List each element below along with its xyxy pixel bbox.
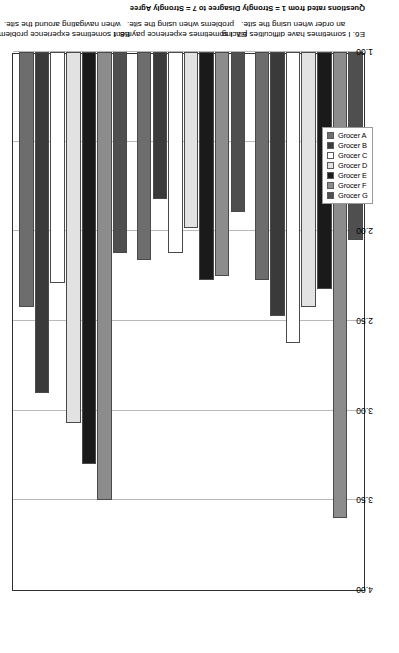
legend-item-grocer-d: Grocer D <box>327 161 368 170</box>
chart-legend: Grocer AGrocer BGrocer CGrocer DGrocer E… <box>322 127 373 204</box>
category-label-line: E6. I sometimes have difficulties placin… <box>222 29 365 39</box>
x-axis-title: Questions rated from 1 = Strongly Disagr… <box>130 4 365 13</box>
bar-grocer-d <box>301 52 316 307</box>
gridline <box>13 499 364 500</box>
legend-swatch-icon <box>327 172 334 179</box>
axis-tick-label: 1.00 <box>356 47 373 57</box>
bar-grocer-c <box>286 52 301 343</box>
legend-item-label: Grocer B <box>338 142 367 150</box>
bar-grocer-c <box>50 52 65 283</box>
legend-item-label: Grocer F <box>338 182 366 190</box>
axis-tick-label: 2.50 <box>356 316 373 326</box>
legend-swatch-icon <box>327 182 334 189</box>
category-label: E8. I sometimes experience problemswhen … <box>0 20 130 39</box>
legend-swatch-icon <box>327 132 334 139</box>
legend-item-label: Grocer G <box>338 192 368 200</box>
bar-grocer-a <box>19 52 34 307</box>
legend-swatch-icon <box>327 142 334 149</box>
axis-tick-label: 4.00 <box>356 585 373 595</box>
bar-grocer-g <box>231 52 246 212</box>
category-label-line: when navigating around the site. <box>0 20 130 30</box>
bar-grocer-f <box>97 52 112 500</box>
category-label-line: an order when using the site. <box>222 20 365 30</box>
bar-grocer-b <box>153 52 168 199</box>
plot-area <box>12 53 365 591</box>
legend-swatch-icon <box>327 152 334 159</box>
legend-item-label: Grocer A <box>338 132 366 140</box>
legend-item-label: Grocer E <box>338 172 367 180</box>
bar-grocer-b <box>35 52 50 393</box>
category-label: E6. I sometimes have difficulties placin… <box>222 20 365 39</box>
axis-tick-label: 3.00 <box>356 406 373 416</box>
legend-item-label: Grocer D <box>338 162 367 170</box>
bar-grocer-e <box>199 52 214 280</box>
legend-item-label: Grocer C <box>338 152 367 160</box>
legend-item-grocer-c: Grocer C <box>327 151 368 160</box>
bar-grocer-a <box>137 52 152 260</box>
legend-item-grocer-f: Grocer F <box>327 181 368 190</box>
bar-grocer-g <box>113 52 128 253</box>
axis-tick-label: 2.00 <box>356 226 373 236</box>
bar-grocer-f <box>333 52 348 518</box>
bar-grocer-c <box>168 52 183 253</box>
legend-swatch-icon <box>327 162 334 169</box>
legend-item-grocer-e: Grocer E <box>327 171 368 180</box>
bar-grocer-e <box>82 52 97 464</box>
legend-item-grocer-b: Grocer B <box>327 141 368 150</box>
bar-chart-figure: 4.003.503.002.502.001.501.00E8. I someti… <box>0 0 399 653</box>
bar-grocer-d <box>66 52 81 423</box>
legend-swatch-icon <box>327 192 334 199</box>
bar-grocer-d <box>184 52 199 228</box>
bar-grocer-b <box>270 52 285 316</box>
legend-item-grocer-a: Grocer A <box>327 131 368 140</box>
category-label-line: E8. I sometimes experience problems <box>0 29 130 39</box>
legend-item-grocer-g: Grocer G <box>327 191 368 200</box>
axis-tick-label: 3.50 <box>356 495 373 505</box>
bar-grocer-f <box>215 52 230 276</box>
bar-grocer-a <box>255 52 270 280</box>
